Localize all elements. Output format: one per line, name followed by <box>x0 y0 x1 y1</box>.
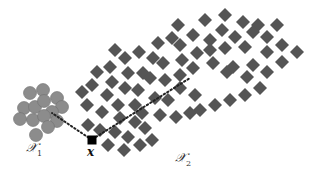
diamond-point <box>270 18 284 32</box>
diamond-point <box>117 143 131 157</box>
diamond-point <box>275 55 289 69</box>
diamond-point <box>121 130 135 144</box>
diamond-point <box>118 81 132 95</box>
diamond-point <box>105 75 119 89</box>
diamond-point <box>121 66 135 80</box>
circle-point <box>42 121 55 134</box>
diamond-point <box>133 138 147 152</box>
diamond-point <box>260 45 274 59</box>
diamond-point <box>80 98 94 112</box>
diamond-point <box>193 103 207 117</box>
diamond-point <box>186 61 200 75</box>
diamond-point <box>290 45 304 59</box>
diamond-point <box>132 45 146 59</box>
diamond-point <box>111 98 125 112</box>
circle-point <box>38 95 51 108</box>
diamond-point <box>240 70 254 84</box>
diamond-point <box>198 13 212 27</box>
diamond-point <box>253 81 267 95</box>
query-point-square <box>88 136 97 145</box>
diamond-point <box>218 8 232 22</box>
diamond-point <box>260 65 274 79</box>
diamond-point <box>215 23 229 37</box>
diamond-point <box>203 43 217 57</box>
diamond-point <box>169 110 183 124</box>
diamond-point <box>108 43 122 57</box>
diamond-point <box>101 138 115 152</box>
diamond-point <box>183 106 197 120</box>
cluster-1-label-text: 𝒳 <box>26 140 37 155</box>
point-label: x <box>87 146 94 158</box>
diamond-point <box>85 78 99 92</box>
diamond-point <box>90 65 104 79</box>
cluster-2-label: 𝒳2 <box>175 151 191 168</box>
diamond-point <box>118 51 132 65</box>
cluster-1-circles <box>14 84 69 142</box>
diamond-point <box>153 108 167 122</box>
diamond-point <box>228 30 242 44</box>
cluster-2-diamonds <box>75 8 304 157</box>
diamond-point <box>246 58 260 72</box>
diamond-point <box>145 133 159 147</box>
cluster-2-label-text: 𝒳 <box>175 150 186 165</box>
diamond-point <box>218 41 232 55</box>
diamond-point <box>238 40 252 54</box>
diamond-point <box>238 88 252 102</box>
diamond-point <box>95 105 109 119</box>
cluster-2-label-subscript: 2 <box>186 159 191 168</box>
diamond-point <box>158 73 172 87</box>
diamond-point <box>208 98 222 112</box>
diamond-point <box>188 88 202 102</box>
diamond-point <box>260 30 274 44</box>
circle-point <box>14 113 27 126</box>
diamond-point <box>175 53 189 67</box>
diamond-point <box>81 118 95 132</box>
diamond-point <box>75 85 89 99</box>
diamond-point <box>186 28 200 42</box>
diamond-point <box>206 56 220 70</box>
cluster-1-label: 𝒳1 <box>26 141 42 158</box>
diamond-point <box>103 60 117 74</box>
diamond-point <box>190 46 204 60</box>
circle-point <box>24 87 37 100</box>
scatter-diagram <box>0 0 320 174</box>
point-label-text: x <box>87 145 94 159</box>
cluster-1-label-subscript: 1 <box>37 149 42 158</box>
diamond-point <box>236 15 250 29</box>
diamond-point <box>131 83 145 97</box>
diamond-point <box>151 36 165 50</box>
diamond-point <box>171 18 185 32</box>
diamond-point <box>275 38 289 52</box>
diamond-point <box>100 88 114 102</box>
diamond-point <box>173 68 187 82</box>
diamond-point <box>223 93 237 107</box>
